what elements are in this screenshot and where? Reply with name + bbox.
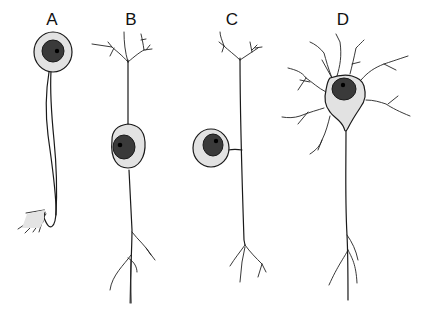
neuron-a-nucleus <box>42 40 64 62</box>
neuron-drawings <box>0 0 428 314</box>
neuron-a-nucleolus <box>55 49 59 53</box>
neuron-c-nucleolus <box>214 139 218 143</box>
neuron-d-axon-terminals <box>329 235 358 285</box>
neuron-d-nucleolus <box>341 83 345 87</box>
neuron-c-pseudounipolar <box>193 32 266 282</box>
neuron-b-dendrite-branches <box>92 32 152 62</box>
neuron-diagram: A B C D <box>0 0 428 314</box>
neuron-b-nucleolus <box>118 143 123 148</box>
neuron-c-dendrite-branches <box>219 32 262 60</box>
neuron-a-unipolar <box>18 32 72 233</box>
neuron-a-axon <box>42 72 56 227</box>
neuron-d-nucleus <box>332 78 356 100</box>
neuron-a-terminal-fill <box>22 210 44 228</box>
neuron-c-nucleus <box>203 134 223 156</box>
neuron-b-nucleus <box>113 135 135 159</box>
neuron-d-axon <box>346 130 348 300</box>
neuron-d-multipolar <box>282 34 410 300</box>
neuron-c-terminal-branches <box>230 245 266 282</box>
neuron-b-axon-terminals <box>110 232 155 303</box>
neuron-c-stem <box>228 149 242 150</box>
neuron-b-bipolar <box>92 32 155 303</box>
neuron-c-process <box>240 58 245 245</box>
